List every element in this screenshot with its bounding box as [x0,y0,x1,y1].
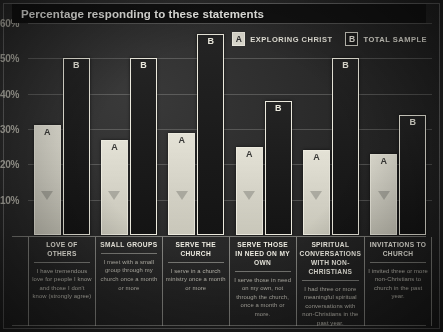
category-labels: LOVE OF OTHERSI have tremendous love for… [28,237,432,326]
legend-item-total-sample: B TOTAL SAMPLE [345,32,427,46]
category-title: SPIRITUAL CONVERSATIONS WITH NON-CHRISTI… [300,241,362,277]
bar-group: AB [230,23,297,235]
bar-a: A [303,150,330,235]
category-divider [235,271,291,272]
legend-label-b: TOTAL SAMPLE [363,35,427,44]
page-title: Percentage responding to these statement… [12,8,264,20]
y-axis-tick-label: 40% [0,88,26,99]
bar-letter-b: B [275,104,282,113]
category-divider [168,262,224,263]
category-divider [101,253,157,254]
legend-swatch-b: B [345,32,358,46]
category-label-box: SMALL GROUPSI meet with a small group th… [95,237,162,326]
bar-groups: ABABABABABAB [28,23,432,235]
category-title: SERVE THE CHURCH [166,241,226,259]
bar-letter-b: B [208,37,215,46]
category-label-box: SPIRITUAL CONVERSATIONS WITH NON-CHRISTI… [296,237,365,326]
chart-title-bar: Percentage responding to these statement… [12,4,426,23]
category-divider [34,262,90,263]
bar-letter-a: A [381,157,388,166]
category-label-box: INVITATIONS TO CHURCHI invited three or … [364,237,432,326]
chart-legend: A EXPLORING CHRIST B TOTAL SAMPLE [232,32,427,46]
bar-b: B [265,101,292,235]
category-divider [302,280,360,281]
y-axis-tick-label: 50% [0,53,26,64]
bar-a: A [236,147,263,235]
category-divider [370,262,426,263]
category-description: I serve those in need on my own, not thr… [233,276,293,319]
y-axis-tick-label: 30% [0,124,26,135]
category-description: I meet with a small group through my chu… [99,258,159,292]
legend-swatch-a: A [232,32,245,46]
bar-a: A [370,154,397,235]
bar-group: AB [95,23,162,235]
category-title: LOVE OF OTHERS [32,241,92,259]
category-label-box: LOVE OF OTHERSI have tremendous love for… [28,237,95,326]
bar-b: B [399,115,426,235]
chart-container: Percentage responding to these statement… [0,0,443,332]
bar-letter-a: A [313,153,320,162]
bar-a: A [34,125,61,235]
bar-letter-b: B [342,61,349,70]
bar-letter-a: A [111,143,118,152]
category-description: I serve in a church ministry once a mont… [166,267,226,293]
bar-b: B [197,34,224,235]
category-description: I had three or more meaningful spiritual… [300,285,362,328]
bar-a: A [168,133,195,235]
legend-label-a: EXPLORING CHRIST [250,35,332,44]
bar-b: B [332,58,359,235]
bar-letter-b: B [410,118,417,127]
y-axis-tick-label: 20% [0,159,26,170]
category-title: SMALL GROUPS [99,241,159,250]
labels-bottom-divider [12,325,426,326]
category-description: I invited three or more non-Christians t… [368,267,428,301]
category-title: SERVE THOSE IN NEED ON MY OWN [233,241,293,268]
bar-letter-b: B [140,61,147,70]
bar-b: B [63,58,90,235]
bar-letter-a: A [246,150,253,159]
category-title: INVITATIONS TO CHURCH [368,241,428,259]
y-axis-tick-label: 10% [0,194,26,205]
bar-letter-b: B [73,61,80,70]
bar-a: A [101,140,128,235]
bar-group: AB [28,23,95,235]
bar-b: B [130,58,157,235]
category-label-box: SERVE THOSE IN NEED ON MY OWNI serve tho… [229,237,296,326]
bar-letter-a: A [179,136,186,145]
category-description: I have tremendous love for people I know… [32,267,92,301]
legend-item-exploring-christ: A EXPLORING CHRIST [232,32,332,46]
bar-letter-a: A [44,128,51,137]
plot-area: 60%50%40%30%20%10% ABABABABABAB [28,23,432,235]
bar-group: AB [163,23,230,235]
bar-group: AB [297,23,364,235]
bar-group: AB [365,23,432,235]
labels-top-divider [12,236,426,237]
category-label-box: SERVE THE CHURCHI serve in a church mini… [162,237,229,326]
